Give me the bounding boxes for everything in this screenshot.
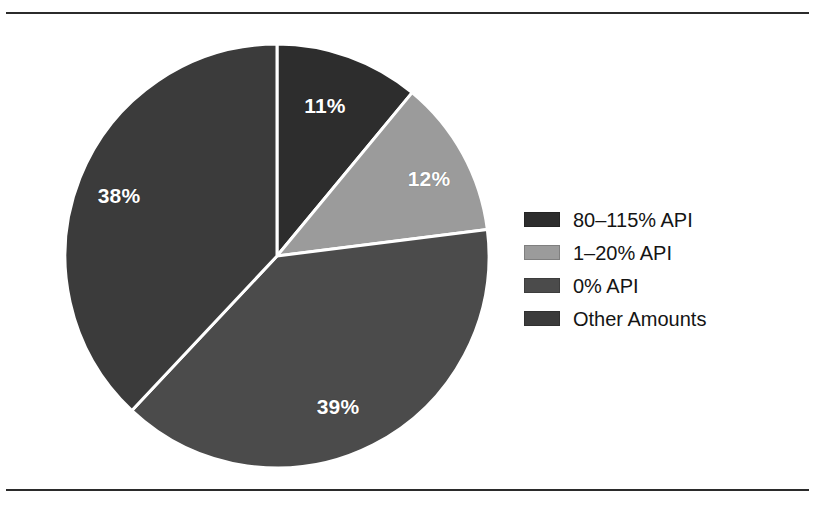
legend-item-label: 0% API — [573, 276, 639, 296]
figure-frame: 11%12%39%38% 80–115% API1–20% API0% APIO… — [0, 0, 815, 506]
pie-slice-value-label: 12% — [408, 167, 451, 191]
legend-color-swatch-icon — [524, 245, 560, 260]
legend-item[interactable]: Other Amounts — [524, 302, 774, 335]
legend-item[interactable]: 1–20% API — [524, 236, 774, 269]
pie-slice-group — [65, 44, 489, 468]
legend-item[interactable]: 0% API — [524, 269, 774, 302]
chart-legend: 80–115% API1–20% API0% APIOther Amounts — [524, 203, 774, 335]
legend-item-label: 80–115% API — [573, 210, 693, 230]
pie-slice-value-label: 39% — [317, 395, 360, 419]
legend-color-swatch-icon — [524, 311, 560, 326]
pie-slice-value-label: 11% — [304, 94, 345, 118]
legend-item-label: 1–20% API — [573, 243, 672, 263]
legend-color-swatch-icon — [524, 212, 560, 227]
legend-color-swatch-icon — [524, 278, 560, 293]
pie-chart: 11%12%39%38% 80–115% API1–20% API0% APIO… — [0, 0, 815, 506]
legend-item[interactable]: 80–115% API — [524, 203, 774, 236]
legend-item-label: Other Amounts — [573, 309, 706, 329]
pie-slice-value-label: 38% — [98, 184, 141, 208]
